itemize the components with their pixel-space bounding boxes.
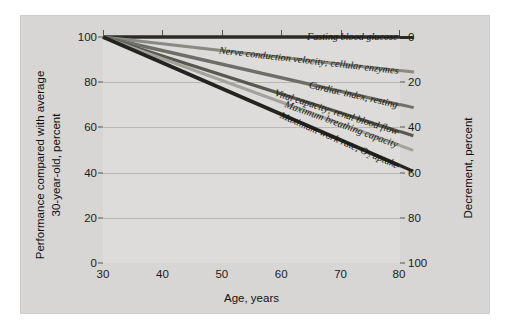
x-tick-mark-60 — [281, 30, 282, 36]
x-axis-title: Age, years — [103, 292, 400, 304]
y-right-tick-label-0: 0 — [408, 31, 448, 43]
series-label: Fasting blood glucose — [307, 31, 398, 42]
x-tick-mark-50 — [222, 30, 223, 36]
x-tick-mark-30 — [103, 30, 104, 36]
x-tick-mark-40 — [162, 30, 163, 36]
x-tick-label-80: 80 — [393, 268, 406, 280]
y-axis-title: Performance compared with average 30-yea… — [33, 70, 64, 259]
series-label-connector — [399, 144, 413, 152]
y-right-tick-label-80: 80 — [408, 212, 448, 224]
x-tick-label-30: 30 — [97, 268, 110, 280]
figure-panel: 100 80 60 40 20 0 0 20 40 60 80 100 30 4… — [21, 16, 489, 313]
x-tick-label-60: 60 — [275, 268, 288, 280]
series-label-connector — [400, 103, 414, 109]
series-label-connector — [400, 69, 414, 74]
y-axis-title-line-1: Performance compared with average — [33, 70, 49, 259]
y-right-tick-label-20: 20 — [408, 76, 448, 88]
y-right-tick-mark-60 — [400, 172, 405, 173]
y-tick-label-100: 100 — [57, 31, 97, 43]
y-right-tick-mark-80 — [400, 217, 405, 218]
x-tick-label-70: 70 — [334, 268, 347, 280]
y-right-tick-mark-100 — [400, 263, 405, 264]
x-tick-label-40: 40 — [156, 268, 169, 280]
y-axis-title-right: Decrement, percent — [462, 118, 474, 219]
y-right-tick-mark-20 — [400, 82, 405, 83]
y-right-tick-label-40: 40 — [408, 121, 448, 133]
series-label-connector — [400, 36, 414, 39]
y-right-tick-mark-40 — [400, 127, 405, 128]
x-tick-label-50: 50 — [215, 268, 228, 280]
y-right-tick-label-100: 100 — [408, 257, 448, 269]
y-right-tick-label-60: 60 — [408, 167, 448, 179]
y-axis-title-line-2: 30-year-old, percent — [49, 70, 65, 259]
